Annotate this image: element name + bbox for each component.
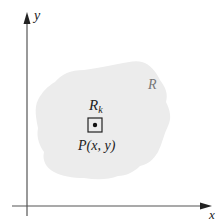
subregion-label-sub: k bbox=[98, 104, 103, 115]
diagram-canvas: y x R Rk P(x, y) bbox=[0, 0, 221, 221]
region-r-label: R bbox=[147, 77, 157, 92]
point-dot-icon bbox=[93, 123, 97, 127]
y-axis-arrow-icon bbox=[24, 12, 31, 24]
point-label: P(x, y) bbox=[77, 138, 116, 154]
subregion-label-main: R bbox=[88, 97, 98, 113]
y-axis-label: y bbox=[32, 8, 41, 23]
x-axis-label: x bbox=[208, 207, 215, 221]
